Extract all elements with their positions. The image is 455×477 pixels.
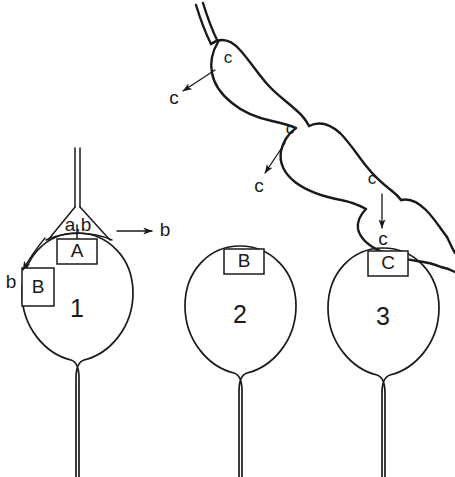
chain-junction-2 (392, 191, 401, 200)
spindle-chain: c c c c c c (169, 3, 455, 272)
chain-cell-2-lower-edge (309, 124, 392, 191)
chain-tail-upper-2 (203, 3, 218, 42)
chain-callout-2-label: c (254, 175, 264, 196)
structure-2-number: 2 (233, 300, 247, 328)
structure-1-box-b-label: B (32, 276, 45, 297)
chain-tail-lower (447, 237, 455, 253)
chain-cell-3-label: c (368, 169, 377, 188)
structure-1: A B 1 a,b b b (6, 148, 171, 477)
structure-2-body (185, 246, 296, 477)
diagram-figure: c c c c c c A (0, 0, 455, 477)
chain-cell-1-label: c (224, 48, 233, 67)
structure-1-triangle-label: a,b (65, 214, 91, 235)
structure-1-callout-b-right-label: b (160, 219, 171, 240)
chain-cell-2-label: c (286, 119, 295, 138)
chain-junction-1 (296, 110, 309, 126)
chain-tail-upper (196, 5, 211, 44)
diagram-canvas: c c c c c c A (0, 0, 455, 477)
structure-1-number: 1 (70, 294, 84, 322)
chain-callout-1-label: c (169, 87, 179, 108)
structure-3: C 3 (328, 248, 439, 477)
chain-callout-1-arrow (183, 70, 215, 91)
chain-cell-3-lower-edge (401, 199, 447, 237)
chain-cell-2-upper-edge (281, 128, 366, 209)
structure-3-number: 3 (376, 302, 390, 330)
chain-callout-2-arrow (265, 143, 285, 173)
chain-callout-3-label: c (378, 228, 388, 249)
chain-tail-lower-2 (441, 267, 455, 272)
structure-2: B 2 (185, 246, 296, 477)
structure-3-box-c-label: C (381, 252, 395, 273)
structure-1-box-a-label: A (71, 240, 84, 261)
structure-1-callout-b-left-label: b (6, 271, 17, 292)
structure-2-box-b-label: B (238, 250, 251, 271)
structure-3-body (328, 248, 439, 477)
